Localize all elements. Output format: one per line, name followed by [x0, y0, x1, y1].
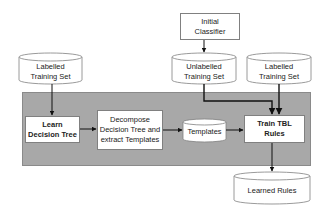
node-label: Unlabelled Training Set: [184, 62, 224, 82]
node-label: Learned Rules: [248, 186, 297, 196]
node-unlabelled-training-set: Unlabelled Training Set: [172, 61, 236, 83]
node-templates: Templates: [183, 124, 226, 140]
node-initial-classifier: Initial Classifier: [180, 13, 240, 40]
node-learned-rules: Learned Rules: [234, 180, 310, 202]
node-label: Templates: [187, 127, 221, 137]
node-label: Initial Classifier: [195, 17, 226, 37]
node-label: Labelled Training Set: [30, 62, 70, 82]
node-label: Labelled Training Set: [259, 62, 299, 82]
node-label: Train TBL Rules: [257, 119, 292, 139]
node-labelled-training-set-left: Labelled Training Set: [19, 61, 82, 83]
node-label: Decompose Decision Tree and extract Temp…: [100, 115, 160, 145]
node-label: Learn Decision Tree: [28, 120, 77, 140]
node-decompose: Decompose Decision Tree and extract Temp…: [97, 110, 163, 150]
node-train-tbl-rules: Train TBL Rules: [244, 115, 305, 143]
node-learn-decision-tree: Learn Decision Tree: [25, 116, 80, 143]
node-labelled-training-set-right: Labelled Training Set: [247, 61, 311, 83]
